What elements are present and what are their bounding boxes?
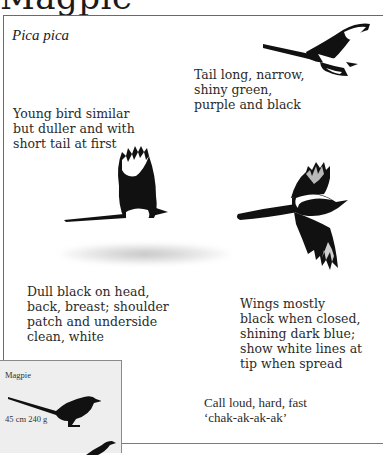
inset-species-name: Magpie	[5, 370, 31, 380]
magpie-flying-spread-right-illustration	[236, 158, 356, 288]
mist-shadow	[60, 243, 230, 265]
tail-description: Tail long, narrow, shiny green, purple a…	[194, 67, 304, 112]
call-description: Call loud, hard, fast ‘chak-ak-ak-ak’	[204, 395, 307, 425]
magpie-silhouette-perched-icon	[6, 391, 101, 431]
plumage-description: Dull black on head, back, breast; should…	[27, 284, 169, 344]
latin-name: Pica pica	[12, 27, 69, 44]
magpie-flying-center-left-illustration	[64, 146, 184, 236]
magpie-silhouette-partial-icon	[86, 439, 116, 455]
page-title: Magpie	[0, 0, 133, 14]
young-bird-description: Young bird similar but duller and with s…	[13, 106, 135, 151]
wings-description: Wings mostly black when closed, shining …	[240, 296, 362, 371]
size-inset-box: Magpie 45 cm 240 g	[0, 360, 122, 453]
